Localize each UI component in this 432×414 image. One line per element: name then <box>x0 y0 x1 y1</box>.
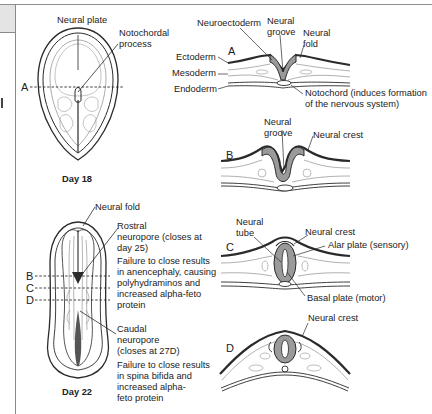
label-caudal-failure-line3: increased alpha- <box>117 382 186 393</box>
label-neural-groove-b-line2: groove <box>264 128 292 139</box>
caption-day-18: Day 18 <box>62 174 92 185</box>
section-marker-d: D <box>26 294 34 306</box>
label-rostral-failure-line3: polyhydraminos and <box>117 278 200 289</box>
section-letter-c: C <box>226 241 234 253</box>
label-ectoderm: Ectoderm <box>176 52 216 63</box>
label-rostral-failure-line4: increased alpha-feto <box>117 289 201 300</box>
label-rostral-line1: Rostral <box>117 221 146 232</box>
section-marker-b: B <box>26 270 33 282</box>
label-rostral-failure-line5: protein <box>117 300 145 311</box>
label-rostral-line2: neuropore (closes at <box>117 232 202 243</box>
label-neural-crest-b: Neural crest <box>313 130 363 141</box>
label-neural-groove-a-line1: Neural <box>267 16 294 27</box>
label-alar-plate: Alar plate (sensory) <box>328 240 409 251</box>
label-caudal-failure-line2: in spina bifida and <box>117 371 192 382</box>
caption-day-22: Day 22 <box>62 387 92 398</box>
label-caudal-failure-line4: feto protein <box>117 393 164 404</box>
day18-embryo-illustration <box>38 28 118 160</box>
caudal-neuropore-shape <box>75 310 81 366</box>
label-neural-tube-line2: tube <box>236 228 254 239</box>
label-notochord-line2: of the nervous system) <box>305 99 399 110</box>
label-neural-groove-b-line1: Neural <box>264 117 291 128</box>
label-neural-fold-a-line2: fold <box>303 39 318 50</box>
section-d-illustration <box>220 331 350 391</box>
label-endoderm: Endoderm <box>174 84 217 95</box>
label-neural-plate: Neural plate <box>57 15 107 26</box>
label-neural-tube-line1: Neural <box>236 217 263 228</box>
label-caudal-line2: neuropore <box>117 335 159 346</box>
label-mesoderm: Mesoderm <box>172 68 216 79</box>
label-rostral-line3: day 25) <box>117 243 148 254</box>
section-d-leader-line <box>302 323 308 337</box>
label-notochordal-process-line2: process <box>119 39 152 50</box>
label-basal-plate: Basal plate (motor) <box>307 293 386 304</box>
section-a-illustration <box>228 55 350 88</box>
label-notochordal-process-line1: Notochordal <box>119 28 169 39</box>
section-marker-c: C <box>26 282 34 294</box>
section-letter-d: D <box>226 342 234 354</box>
label-notochord-line1: Notochord (induces formation <box>305 88 427 99</box>
section-b-illustration <box>221 146 350 191</box>
label-rostral-failure-line2: in anencephaly, causing <box>117 267 216 278</box>
label-neuroectoderm: Neuroectoderm <box>197 18 261 29</box>
section-letter-a: A <box>228 45 235 57</box>
label-rostral-failure-line1: Failure to close results <box>117 256 210 267</box>
label-caudal-line1: Caudal <box>117 324 146 335</box>
day22-leader-lines <box>80 207 118 334</box>
label-neural-groove-a-line2: groove <box>267 27 295 38</box>
label-caudal-line3: (closes at 27D) <box>117 346 180 357</box>
neural-development-diagram <box>0 0 432 414</box>
label-caudal-failure-line1: Failure to close results <box>117 360 210 371</box>
label-neural-crest-d: Neural crest <box>308 313 358 324</box>
label-neural-crest-c: Neural crest <box>305 227 355 238</box>
section-marker-a: A <box>21 81 28 93</box>
section-letter-b: B <box>226 149 233 161</box>
label-neural-fold-a-line1: Neural <box>303 28 330 39</box>
label-neural-fold-day22: Neural fold <box>95 202 140 213</box>
